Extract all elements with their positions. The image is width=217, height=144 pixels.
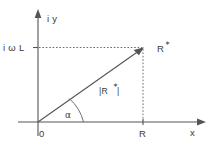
phasor-magnitude-open: |R bbox=[99, 86, 108, 96]
y-axis-arrowhead-icon bbox=[35, 9, 42, 18]
real-tick-label: R bbox=[139, 128, 146, 139]
angle-label: α bbox=[65, 110, 71, 120]
phasor-vector-label: R ∗ bbox=[157, 39, 170, 54]
origin-label: 0 bbox=[39, 128, 45, 139]
phasor-diagram-figure: i y x i ω L R 0 R ∗ |R ∗ | α bbox=[0, 0, 217, 144]
phasor-magnitude-label: |R ∗ | bbox=[99, 81, 120, 96]
phasor-vector-label-star: ∗ bbox=[165, 39, 170, 46]
x-axis-arrowhead-icon bbox=[197, 119, 206, 126]
angle-arc bbox=[69, 99, 83, 123]
phasor-vector-line bbox=[38, 51, 140, 123]
y-axis-label: i y bbox=[47, 13, 57, 24]
phasor-magnitude-close: | bbox=[117, 86, 120, 96]
phasor-diagram-canvas: i y x i ω L R 0 R ∗ |R ∗ | α bbox=[0, 0, 217, 144]
imaginary-tick-label: i ω L bbox=[3, 42, 25, 53]
phasor-vector-label-text: R bbox=[157, 43, 164, 54]
x-axis-label: x bbox=[190, 127, 195, 138]
